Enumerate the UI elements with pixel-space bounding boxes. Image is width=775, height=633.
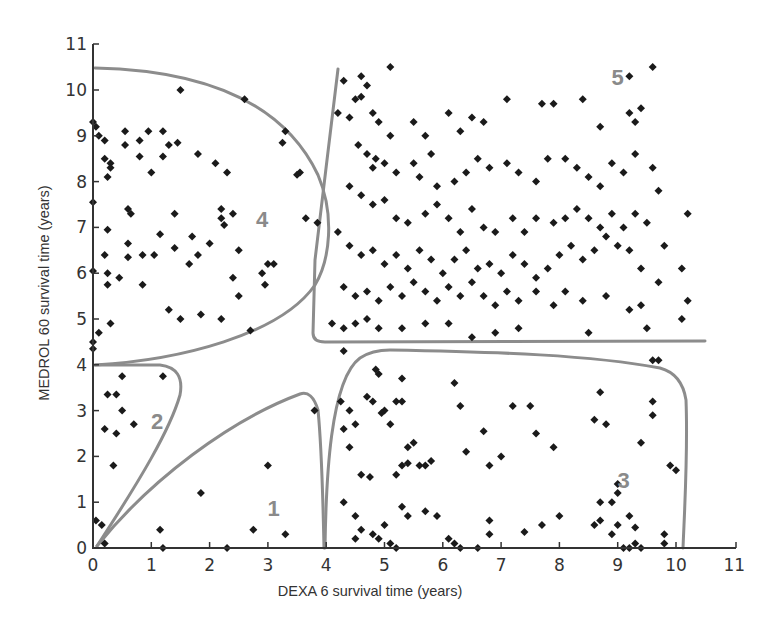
data-point-marker [165, 306, 173, 314]
data-points [89, 63, 692, 552]
data-point-marker [369, 397, 377, 405]
data-point-marker [637, 104, 645, 112]
data-point-marker [340, 498, 348, 506]
data-point-marker [147, 168, 155, 176]
data-point-marker [206, 239, 214, 247]
y-tick-label: 5 [76, 309, 87, 329]
data-point-marker [217, 205, 225, 213]
data-point-marker [410, 159, 418, 167]
data-point-marker [474, 265, 482, 273]
data-point-marker [346, 407, 354, 415]
data-point-marker [532, 288, 540, 296]
data-point-marker [590, 246, 598, 254]
data-point-marker [404, 219, 412, 227]
data-point-marker [450, 178, 458, 186]
data-point-marker [532, 214, 540, 222]
data-point-marker [421, 462, 429, 470]
data-point-marker [217, 214, 225, 222]
data-point-marker [631, 118, 639, 126]
y-tick-label: 9 [76, 126, 87, 146]
data-point-marker [620, 223, 628, 231]
data-point-marker [130, 420, 138, 428]
data-point-marker [585, 173, 593, 181]
data-point-marker [503, 95, 511, 103]
data-point-marker [264, 462, 272, 470]
data-point-marker [631, 210, 639, 218]
data-point-marker [509, 251, 517, 259]
data-point-marker [217, 315, 225, 323]
data-point-marker [550, 301, 558, 309]
data-point-marker [112, 430, 120, 438]
data-point-marker [503, 159, 511, 167]
data-point-marker [386, 420, 394, 428]
data-point-marker [101, 251, 109, 259]
data-point-marker [421, 210, 429, 218]
data-point-marker [363, 315, 371, 323]
data-point-marker [450, 379, 458, 387]
data-point-marker [520, 528, 528, 536]
data-point-marker [497, 269, 505, 277]
data-point-marker [363, 393, 371, 401]
data-point-marker [104, 226, 112, 234]
data-point-marker [340, 324, 348, 332]
data-point-marker [392, 168, 400, 176]
data-point-marker [421, 320, 429, 328]
region-label-4: 4 [256, 207, 269, 232]
data-point-marker [625, 109, 633, 117]
data-point-marker [445, 214, 453, 222]
y-tick-label: 0 [76, 538, 87, 558]
data-point-marker [124, 239, 132, 247]
data-point-marker [450, 539, 458, 547]
data-point-marker [104, 173, 112, 181]
data-point-marker [159, 372, 167, 380]
data-point-marker [655, 356, 663, 364]
data-point-marker [144, 127, 152, 135]
data-point-marker [404, 443, 412, 451]
data-point-marker [176, 315, 184, 323]
data-point-marker [386, 283, 394, 291]
data-point-marker [156, 526, 164, 534]
data-point-marker [381, 521, 389, 529]
x-tick-label: 0 [88, 555, 99, 575]
y-tick-label: 8 [76, 172, 87, 192]
data-point-marker [421, 132, 429, 140]
data-point-marker [520, 260, 528, 268]
data-point-marker [672, 466, 680, 474]
x-tick-label: 5 [379, 555, 390, 575]
data-point-marker [649, 397, 657, 405]
x-axis-ticks: 01234567891011 [88, 542, 746, 575]
data-point-marker [456, 228, 464, 236]
x-tick-label: 9 [612, 555, 623, 575]
y-tick-label: 6 [76, 263, 87, 283]
data-point-marker [421, 507, 429, 515]
data-point-marker [357, 526, 365, 534]
data-point-marker [404, 512, 412, 520]
data-point-marker [357, 471, 365, 479]
data-point-marker [188, 233, 196, 241]
data-point-marker [386, 132, 394, 140]
data-point-marker [197, 489, 205, 497]
data-point-marker [433, 512, 441, 520]
data-point-marker [550, 443, 558, 451]
data-point-marker [596, 517, 604, 525]
data-point-marker [346, 113, 354, 121]
data-point-marker [369, 164, 377, 172]
data-point-marker [468, 113, 476, 121]
data-point-marker [115, 274, 123, 282]
data-point-marker [608, 159, 616, 167]
data-point-marker [660, 242, 668, 250]
data-point-marker [555, 512, 563, 520]
data-point-marker [573, 164, 581, 172]
data-point-marker [235, 246, 243, 254]
data-point-marker [480, 223, 488, 231]
data-point-marker [485, 517, 493, 525]
data-point-marker [590, 521, 598, 529]
data-point-marker [532, 178, 540, 186]
data-point-marker [637, 301, 645, 309]
data-point-marker [124, 253, 132, 261]
data-point-marker [118, 372, 126, 380]
region-label-5: 5 [612, 65, 624, 90]
data-point-marker [363, 288, 371, 296]
data-point-marker [555, 251, 563, 259]
data-point-marker [608, 210, 616, 218]
